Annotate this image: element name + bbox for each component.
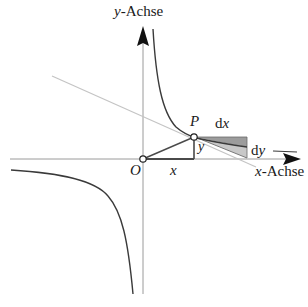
dx-d: d <box>215 115 223 131</box>
dy-leader-line <box>273 151 297 152</box>
dx-label: dx <box>215 116 229 131</box>
x-axis-var: x <box>255 163 262 179</box>
dy-label: dy <box>251 143 265 158</box>
origin-label: O <box>130 163 141 178</box>
x-axis-suffix: -Achse <box>262 163 304 179</box>
x-axis-label: x-Achse <box>255 164 304 179</box>
dy-d: d <box>251 142 259 158</box>
x-segment-label: x <box>170 163 177 178</box>
hyperbola-upper-branch <box>153 29 247 147</box>
radius-line-OP <box>143 137 194 159</box>
y-axis-var: y <box>114 3 121 19</box>
y-axis-arrowhead-icon <box>137 26 149 46</box>
diagram-canvas: y-Achse x-Achse O P x y dx dy <box>0 0 308 307</box>
dy-var: y <box>259 142 266 158</box>
hyperbola-lower-branch <box>11 170 133 294</box>
point-P-label: P <box>190 114 199 129</box>
y-segment-label: y <box>198 140 204 154</box>
dx-var: x <box>223 115 230 131</box>
point-P-icon <box>191 134 197 140</box>
y-axis-label: y-Achse <box>114 4 163 19</box>
y-axis-suffix: -Achse <box>121 3 163 19</box>
